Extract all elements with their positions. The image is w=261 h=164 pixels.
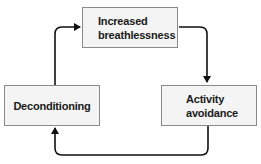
node-label-line: Deconditioning [13, 99, 90, 113]
node-label-line: Increased [98, 14, 177, 28]
node-deconditioning: Deconditioning [4, 85, 100, 126]
node-activity-avoidance: Activity avoidance [161, 85, 257, 126]
node-label-line: breathlessness [98, 28, 177, 42]
node-increased-breathlessness: Increased breathlessness [82, 7, 178, 48]
arrow-deconditioning-to-breathlessness [55, 27, 80, 85]
node-label-line: avoidance [186, 106, 256, 120]
node-label-line: Activity [186, 92, 256, 106]
arrow-avoidance-to-deconditioning [55, 126, 208, 155]
arrow-breathlessness-to-avoidance [179, 27, 207, 82]
